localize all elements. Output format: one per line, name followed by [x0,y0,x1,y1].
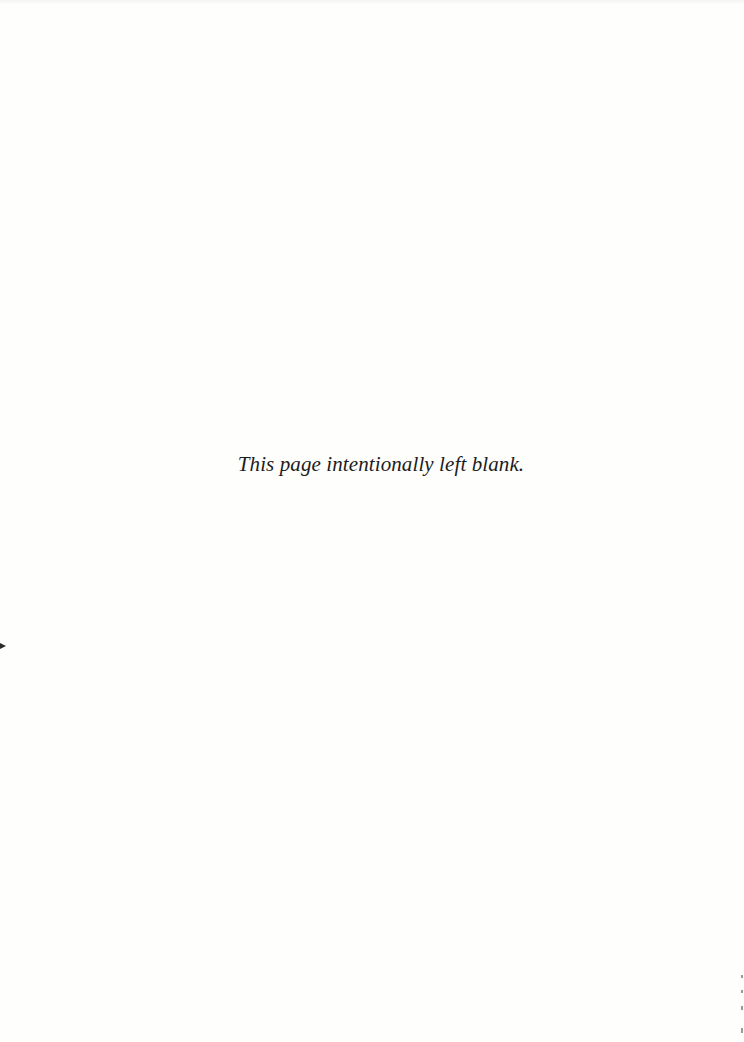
scan-speck [741,975,743,978]
left-edge-mark [0,643,6,649]
document-page: This page intentionally left blank. [0,0,744,1042]
scan-speck [741,1006,743,1010]
scan-speck [741,1028,743,1033]
page-top-edge [0,0,744,4]
scan-speck [741,990,743,993]
blank-page-notice: This page intentionally left blank. [0,452,744,477]
